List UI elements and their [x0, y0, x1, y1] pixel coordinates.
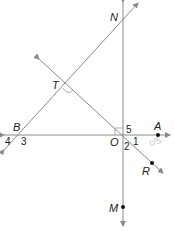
- angle-label-1: 1: [133, 136, 139, 147]
- line-TR: [39, 59, 163, 173]
- angle-label-2: 2: [124, 141, 130, 152]
- label-R: R: [142, 165, 150, 177]
- angle-label-5: 5: [126, 124, 132, 135]
- point-M: [121, 205, 125, 209]
- label-B: B: [13, 121, 20, 133]
- angle-label-4: 4: [5, 136, 11, 147]
- right-angle-mark-O: [115, 128, 123, 135]
- label-O: O: [110, 136, 119, 148]
- angle-label-3: 3: [21, 136, 27, 147]
- label-A: A: [153, 120, 161, 132]
- point-R: [150, 161, 154, 165]
- label-N: N: [110, 11, 118, 23]
- geometry-diagram: N T B O A R M 1 2 3 4 5 c/5: [0, 0, 174, 231]
- handwritten-note: c/5: [148, 135, 162, 148]
- label-M: M: [109, 202, 119, 214]
